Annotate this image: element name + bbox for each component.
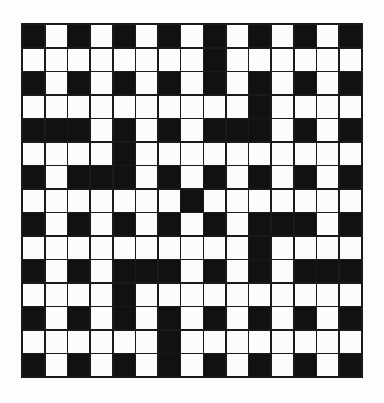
answer-cell[interactable] (340, 96, 361, 118)
answer-cell[interactable] (317, 119, 338, 141)
answer-cell[interactable] (272, 354, 293, 376)
answer-cell[interactable] (340, 331, 361, 353)
answer-cell[interactable] (204, 284, 225, 306)
answer-cell[interactable] (317, 213, 338, 235)
answer-cell[interactable] (114, 237, 135, 259)
answer-cell[interactable] (114, 49, 135, 71)
answer-cell[interactable] (46, 190, 67, 212)
answer-cell[interactable] (23, 190, 44, 212)
answer-cell[interactable] (181, 49, 202, 71)
answer-cell[interactable] (46, 284, 67, 306)
answer-cell[interactable] (68, 331, 89, 353)
answer-cell[interactable] (46, 237, 67, 259)
answer-cell[interactable] (317, 237, 338, 259)
answer-cell[interactable] (227, 190, 248, 212)
answer-cell[interactable] (181, 354, 202, 376)
answer-cell[interactable] (272, 119, 293, 141)
answer-cell[interactable] (181, 72, 202, 94)
answer-cell[interactable] (295, 237, 316, 259)
answer-cell[interactable] (181, 166, 202, 188)
answer-cell[interactable] (136, 190, 157, 212)
answer-cell[interactable] (23, 49, 44, 71)
answer-cell[interactable] (272, 260, 293, 282)
answer-cell[interactable] (91, 72, 112, 94)
answer-cell[interactable] (91, 49, 112, 71)
answer-cell[interactable] (272, 190, 293, 212)
answer-cell[interactable] (317, 190, 338, 212)
answer-cell[interactable] (136, 213, 157, 235)
answer-cell[interactable] (227, 354, 248, 376)
answer-cell[interactable] (181, 307, 202, 329)
answer-cell[interactable] (317, 25, 338, 47)
answer-cell[interactable] (227, 143, 248, 165)
answer-cell[interactable] (272, 331, 293, 353)
answer-cell[interactable] (136, 96, 157, 118)
answer-cell[interactable] (317, 72, 338, 94)
answer-cell[interactable] (249, 190, 270, 212)
answer-cell[interactable] (227, 25, 248, 47)
answer-cell[interactable] (317, 284, 338, 306)
answer-cell[interactable] (181, 331, 202, 353)
answer-cell[interactable] (136, 307, 157, 329)
answer-cell[interactable] (136, 237, 157, 259)
answer-cell[interactable] (295, 96, 316, 118)
answer-cell[interactable] (159, 190, 180, 212)
answer-cell[interactable] (340, 49, 361, 71)
answer-cell[interactable] (68, 237, 89, 259)
answer-cell[interactable] (227, 166, 248, 188)
answer-cell[interactable] (204, 190, 225, 212)
answer-cell[interactable] (159, 237, 180, 259)
answer-cell[interactable] (181, 260, 202, 282)
answer-cell[interactable] (272, 25, 293, 47)
answer-cell[interactable] (46, 354, 67, 376)
answer-cell[interactable] (227, 331, 248, 353)
answer-cell[interactable] (91, 331, 112, 353)
answer-cell[interactable] (249, 49, 270, 71)
answer-cell[interactable] (204, 331, 225, 353)
answer-cell[interactable] (181, 237, 202, 259)
answer-cell[interactable] (227, 72, 248, 94)
answer-cell[interactable] (91, 190, 112, 212)
answer-cell[interactable] (46, 143, 67, 165)
answer-cell[interactable] (272, 284, 293, 306)
answer-cell[interactable] (317, 166, 338, 188)
answer-cell[interactable] (136, 354, 157, 376)
answer-cell[interactable] (340, 143, 361, 165)
answer-cell[interactable] (91, 119, 112, 141)
answer-cell[interactable] (91, 260, 112, 282)
answer-cell[interactable] (317, 354, 338, 376)
answer-cell[interactable] (249, 331, 270, 353)
answer-cell[interactable] (295, 143, 316, 165)
answer-cell[interactable] (91, 213, 112, 235)
answer-cell[interactable] (114, 96, 135, 118)
answer-cell[interactable] (46, 96, 67, 118)
answer-cell[interactable] (91, 307, 112, 329)
answer-cell[interactable] (317, 49, 338, 71)
answer-cell[interactable] (159, 49, 180, 71)
answer-cell[interactable] (227, 284, 248, 306)
answer-cell[interactable] (46, 25, 67, 47)
answer-cell[interactable] (181, 119, 202, 141)
answer-cell[interactable] (317, 143, 338, 165)
answer-cell[interactable] (227, 260, 248, 282)
answer-cell[interactable] (181, 284, 202, 306)
answer-cell[interactable] (91, 96, 112, 118)
answer-cell[interactable] (136, 25, 157, 47)
answer-cell[interactable] (136, 284, 157, 306)
answer-cell[interactable] (249, 284, 270, 306)
answer-cell[interactable] (91, 354, 112, 376)
answer-cell[interactable] (23, 143, 44, 165)
answer-cell[interactable] (272, 49, 293, 71)
answer-cell[interactable] (23, 96, 44, 118)
answer-cell[interactable] (46, 213, 67, 235)
answer-cell[interactable] (295, 284, 316, 306)
answer-cell[interactable] (227, 237, 248, 259)
answer-cell[interactable] (159, 96, 180, 118)
answer-cell[interactable] (46, 307, 67, 329)
answer-cell[interactable] (46, 72, 67, 94)
answer-cell[interactable] (23, 237, 44, 259)
answer-cell[interactable] (68, 190, 89, 212)
answer-cell[interactable] (317, 96, 338, 118)
answer-cell[interactable] (23, 331, 44, 353)
answer-cell[interactable] (227, 49, 248, 71)
